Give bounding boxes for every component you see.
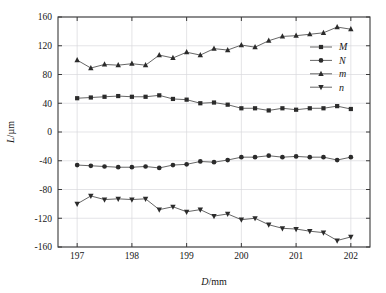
- x-axis-unit: /mm: [208, 276, 227, 287]
- marker-circle: [198, 159, 203, 164]
- y-tick-label: 80: [43, 70, 53, 80]
- marker-triangle-up: [184, 49, 189, 54]
- marker-circle: [266, 153, 271, 158]
- marker-triangle-down: [129, 197, 134, 202]
- legend-label: N: [338, 55, 347, 66]
- marker-square: [130, 95, 134, 99]
- marker-circle: [102, 164, 107, 169]
- marker-square: [280, 106, 284, 110]
- gridlines: [58, 17, 370, 247]
- marker-triangle-up: [74, 57, 79, 62]
- marker-circle: [253, 155, 258, 160]
- marker-circle: [212, 160, 217, 165]
- legend-label: m: [339, 68, 346, 79]
- y-axis-title: L/µm: [5, 121, 16, 144]
- data-series: [74, 194, 353, 244]
- marker-circle: [348, 155, 353, 160]
- legend-entry[interactable]: M: [310, 41, 348, 52]
- marker-square: [267, 108, 271, 112]
- y-tick-label: 160: [38, 12, 53, 22]
- x-tick-label: 197: [70, 251, 85, 261]
- data-series: [75, 93, 353, 112]
- marker-square: [185, 98, 189, 102]
- marker-square: [102, 95, 106, 99]
- chart-container: 197198199200201202-160-120-80-4004080120…: [0, 0, 386, 293]
- marker-square: [319, 45, 323, 49]
- marker-circle: [184, 162, 189, 167]
- marker-circle: [75, 163, 80, 168]
- y-tick-label: -120: [35, 214, 53, 224]
- y-tick-label: 0: [47, 127, 52, 137]
- marker-circle: [130, 165, 135, 170]
- marker-circle: [307, 155, 312, 160]
- marker-square: [239, 106, 243, 110]
- marker-square: [89, 95, 93, 99]
- marker-square: [308, 106, 312, 110]
- marker-square: [294, 108, 298, 112]
- x-tick-label: 198: [125, 251, 140, 261]
- marker-circle: [157, 166, 162, 171]
- marker-square: [75, 96, 79, 100]
- legend-entry[interactable]: m: [310, 68, 346, 79]
- marker-triangle-down: [318, 85, 323, 90]
- x-tick-label: 201: [289, 251, 304, 261]
- marker-circle: [171, 163, 176, 168]
- legend-label: M: [338, 41, 348, 52]
- y-tick-label: -80: [39, 185, 52, 195]
- legend-label: n: [339, 82, 344, 93]
- axis-tick-labels: 197198199200201202-160-120-80-4004080120…: [35, 12, 359, 261]
- y-axis-unit: /µm: [5, 121, 16, 138]
- marker-square: [212, 100, 216, 104]
- x-tick-label: 199: [180, 251, 195, 261]
- marker-triangle-down: [157, 208, 162, 213]
- marker-square: [143, 95, 147, 99]
- marker-circle: [280, 155, 285, 160]
- marker-circle: [143, 164, 148, 169]
- marker-triangle-up: [129, 61, 134, 66]
- marker-circle: [88, 163, 93, 168]
- marker-square: [157, 93, 161, 97]
- marker-circle: [116, 165, 121, 170]
- marker-square: [116, 94, 120, 98]
- legend: MNmn: [310, 41, 348, 92]
- marker-triangle-up: [157, 52, 162, 57]
- marker-square: [321, 106, 325, 110]
- marker-square: [198, 101, 202, 105]
- marker-triangle-up: [239, 42, 244, 47]
- data-series: [75, 153, 353, 170]
- marker-circle: [335, 158, 340, 163]
- marker-triangle-up: [334, 24, 339, 29]
- y-tick-label: 40: [43, 99, 53, 109]
- marker-circle: [321, 155, 326, 160]
- marker-circle: [319, 58, 324, 63]
- marker-square: [349, 107, 353, 111]
- line-chart: 197198199200201202-160-120-80-4004080120…: [0, 0, 386, 293]
- marker-triangle-up: [318, 71, 323, 76]
- marker-triangle-down: [74, 202, 79, 207]
- marker-square: [226, 103, 230, 107]
- y-tick-label: -160: [35, 242, 53, 252]
- legend-entry[interactable]: n: [310, 82, 344, 93]
- marker-square: [253, 106, 257, 110]
- y-tick-label: -40: [39, 156, 52, 166]
- marker-triangle-down: [102, 197, 107, 202]
- marker-triangle-down: [239, 218, 244, 223]
- marker-triangle-up: [211, 46, 216, 51]
- x-tick-label: 202: [344, 251, 359, 261]
- y-tick-label: 120: [38, 41, 53, 51]
- marker-circle: [225, 158, 230, 163]
- marker-triangle-down: [334, 238, 339, 243]
- marker-square: [171, 97, 175, 101]
- x-tick-label: 200: [234, 251, 249, 261]
- marker-square: [335, 104, 339, 108]
- data-series-layer: [74, 24, 353, 244]
- legend-entry[interactable]: N: [310, 55, 347, 66]
- x-axis-title: D/mm: [200, 276, 227, 287]
- marker-circle: [239, 155, 244, 160]
- marker-triangle-up: [102, 61, 107, 66]
- marker-circle: [294, 154, 299, 159]
- marker-triangle-down: [321, 231, 326, 236]
- marker-triangle-down: [184, 210, 189, 215]
